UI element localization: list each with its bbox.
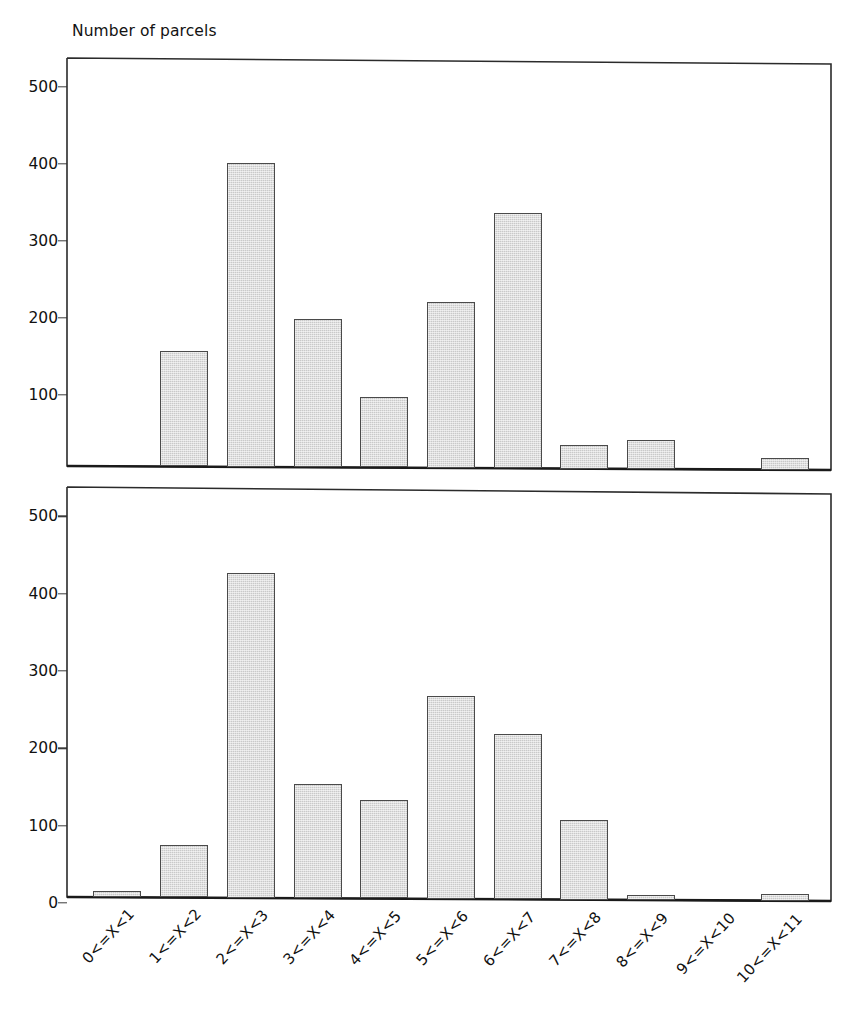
x-tick-label: 3<=X<4: [279, 906, 339, 968]
x-tick-label: 0<=X<1: [79, 905, 139, 967]
figure-container: Number of parcels 100200300400500 010020…: [0, 0, 844, 1010]
bar: [560, 820, 608, 900]
chart-panel-bottom: [66, 487, 832, 903]
bar: [160, 351, 208, 466]
x-tick-label: 10<=X<11: [733, 910, 806, 986]
x-tick-label: 4<=X<5: [346, 907, 406, 969]
bar: [227, 573, 275, 898]
y-axis-title: Number of parcels: [72, 22, 217, 40]
bars-bottom: [66, 487, 832, 903]
x-tick-label: 7<=X<8: [546, 908, 606, 970]
bar: [761, 458, 809, 470]
bar: [227, 163, 275, 467]
y-tick-label: 300: [28, 662, 58, 680]
x-tick-label: 2<=X<3: [212, 906, 272, 968]
x-tick-label: 9<=X<10: [673, 909, 739, 978]
bar: [294, 784, 342, 898]
bar: [360, 800, 408, 898]
bar: [93, 891, 141, 897]
bar: [494, 734, 542, 900]
x-tick-labels: 0<=X<11<=X<22<=X<33<=X<44<=X<55<=X<66<=X…: [0, 905, 844, 1010]
y-tick-label: 400: [28, 585, 58, 603]
y-tick-label: 300: [28, 232, 58, 250]
y-tick-label: 400: [28, 155, 58, 173]
x-tick-label: 8<=X<9: [613, 909, 673, 971]
bar: [494, 213, 542, 468]
y-tick-label: 200: [28, 739, 58, 757]
bar: [627, 440, 675, 469]
bar: [427, 302, 475, 468]
y-tick-label: 200: [28, 309, 58, 327]
bar: [294, 319, 342, 467]
y-tick-labels-bottom: 0100200300400500: [10, 487, 58, 903]
bar: [761, 894, 809, 900]
bar: [427, 696, 475, 899]
bar: [160, 845, 208, 898]
x-tick-label: 1<=X<2: [146, 905, 206, 967]
x-tick-label: 5<=X<6: [412, 907, 472, 969]
y-tick-label: 500: [28, 507, 58, 525]
y-tick-labels-top: 100200300400500: [10, 58, 58, 472]
x-tick-label: 6<=X<7: [479, 908, 539, 970]
bars-top: [66, 58, 832, 472]
chart-panel-top: [66, 58, 832, 472]
bar: [360, 397, 408, 468]
y-tick-label: 100: [28, 386, 58, 404]
bar: [560, 445, 608, 468]
y-tick-label: 500: [28, 78, 58, 96]
bar: [627, 895, 675, 900]
y-tick-label: 100: [28, 817, 58, 835]
